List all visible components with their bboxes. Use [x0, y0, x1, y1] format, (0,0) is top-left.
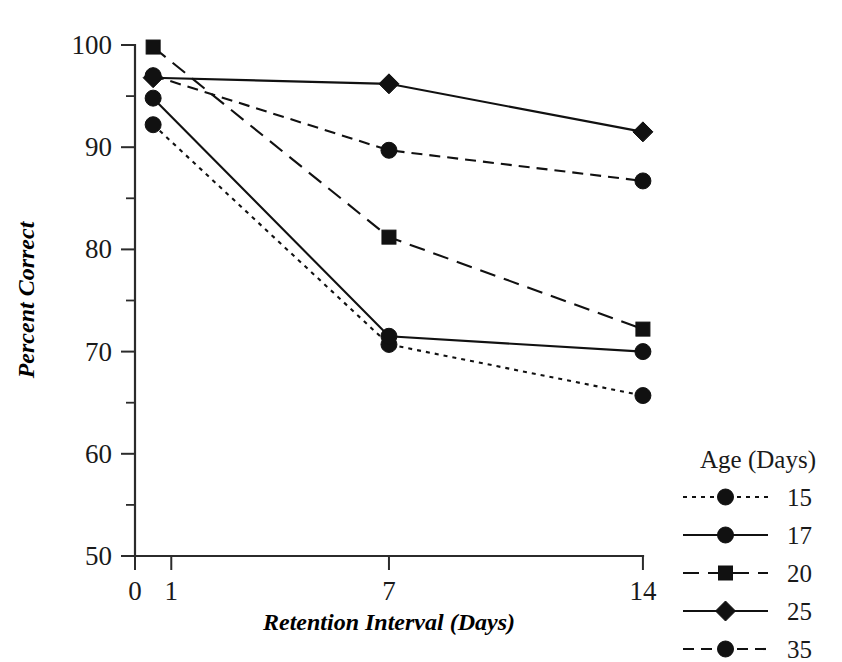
data-point-circle — [635, 388, 651, 404]
data-point-circle — [635, 344, 651, 360]
data-point-circle — [145, 68, 161, 84]
data-point-circle — [381, 142, 397, 158]
legend-label-20: 20 — [787, 560, 812, 587]
data-point-square — [146, 40, 160, 54]
series-line-15 — [153, 125, 643, 396]
data-point-circle — [718, 489, 734, 505]
data-point-diamond — [633, 122, 653, 142]
x-axis: 01714 Retention Interval (Days) — [128, 556, 657, 635]
legend-entry[interactable]: 20 — [683, 560, 812, 587]
x-tick-label: 14 — [629, 576, 657, 606]
legend-title: Age (Days) — [700, 446, 816, 474]
data-point-circle — [145, 90, 161, 106]
x-tick-label: 1 — [165, 576, 179, 606]
data-point-square — [719, 566, 733, 580]
data-point-diamond — [379, 74, 399, 94]
plot-series-lines — [153, 47, 643, 396]
series-line-25 — [153, 78, 643, 132]
y-tick-label: 80 — [85, 234, 112, 264]
line-chart-canvas: 5060708090100 Percent Correct 01714 Rete… — [0, 0, 842, 662]
legend-label-15: 15 — [787, 484, 812, 511]
series-line-20 — [153, 47, 643, 329]
y-axis-title: Percent Correct — [13, 220, 39, 379]
y-tick-label: 60 — [85, 439, 112, 469]
legend-entry[interactable]: 15 — [683, 484, 812, 511]
x-axis-title: Retention Interval (Days) — [262, 609, 515, 635]
data-point-diamond — [716, 601, 736, 621]
y-axis-tick-labels: 5060708090100 — [72, 30, 113, 571]
legend-entries: 1517202535 — [683, 484, 812, 662]
data-point-square — [636, 322, 650, 336]
series-line-17 — [153, 98, 643, 351]
data-point-circle — [718, 641, 734, 657]
series-line-35 — [153, 76, 643, 181]
legend-label-25: 25 — [787, 598, 812, 625]
data-point-circle — [381, 328, 397, 344]
legend-entry[interactable]: 35 — [683, 636, 812, 662]
y-tick-label: 100 — [72, 30, 113, 60]
legend-entry[interactable]: 17 — [683, 522, 812, 549]
x-tick-label: 7 — [382, 576, 396, 606]
legend-label-35: 35 — [787, 636, 812, 662]
y-axis: 5060708090100 Percent Correct — [13, 30, 135, 571]
data-point-circle — [635, 173, 651, 189]
chart-figure: 5060708090100 Percent Correct 01714 Rete… — [0, 0, 842, 662]
y-axis-ticks — [121, 45, 135, 556]
x-axis-tick-labels: 01714 — [128, 576, 657, 606]
legend: Age (Days) 1517202535 — [683, 446, 816, 662]
legend-label-17: 17 — [787, 522, 812, 549]
data-point-square — [382, 230, 396, 244]
data-point-circle — [145, 117, 161, 133]
plot-series-markers — [143, 40, 653, 404]
y-tick-label: 90 — [85, 132, 112, 162]
y-tick-label: 50 — [85, 541, 112, 571]
y-tick-label: 70 — [85, 337, 112, 367]
legend-entry[interactable]: 25 — [683, 598, 812, 625]
x-tick-label: 0 — [128, 576, 142, 606]
data-point-circle — [718, 527, 734, 543]
x-axis-ticks — [135, 556, 643, 570]
